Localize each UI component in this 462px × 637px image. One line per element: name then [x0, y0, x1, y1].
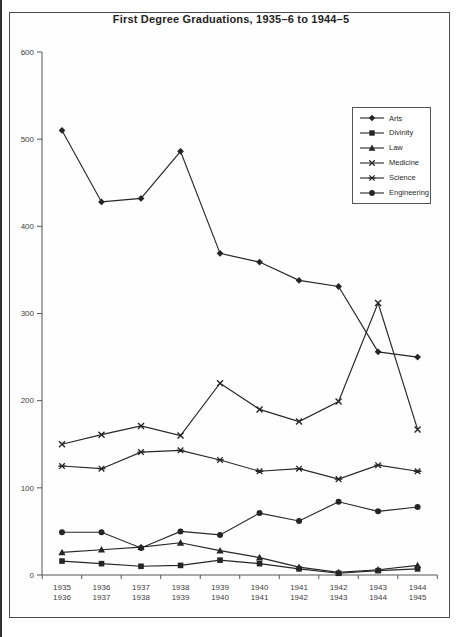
series-medicine [59, 300, 421, 447]
legend-item-engineering: Engineering [359, 189, 428, 197]
square-marker-icon [178, 563, 184, 569]
star-marker-icon [58, 463, 66, 469]
arts-diamond-marker-icon [359, 114, 385, 122]
x-axis-tick-label: 1944 [409, 583, 427, 592]
x-axis-tick-label: 1941 [290, 583, 308, 592]
series-divinity [59, 557, 420, 576]
x-marker-icon [336, 399, 342, 405]
engineering-circle-marker-icon [359, 189, 385, 197]
square-marker-icon [59, 558, 65, 564]
circle-marker-icon [257, 510, 263, 516]
legend-item-law: Law [359, 144, 428, 152]
y-axis-tick-label: 400 [21, 222, 35, 231]
legend-label-engineering: Engineering [389, 189, 429, 197]
diamond-marker-icon [256, 259, 263, 266]
triangle-marker-icon [414, 562, 421, 569]
legend-item-divinity: Divinity [359, 129, 428, 137]
x-axis-tick-label: 1939 [211, 583, 229, 592]
diamond-marker-icon [59, 127, 66, 134]
square-marker-icon [257, 561, 263, 567]
y-axis-tick-label: 0 [30, 571, 35, 580]
law-triangle-marker-icon [359, 144, 385, 152]
y-axis-tick-label: 100 [21, 484, 35, 493]
legend-label-divinity: Divinity [389, 129, 413, 137]
x-axis-tick-label: 1940 [251, 583, 269, 592]
x-axis-tick-label: 1942 [330, 583, 348, 592]
series-engineering [59, 499, 421, 551]
diamond-marker-icon [335, 283, 342, 290]
x-marker-icon [296, 419, 302, 425]
circle-marker-icon [178, 528, 184, 534]
circle-marker-icon [296, 518, 302, 524]
series-science [58, 448, 421, 482]
star-marker-icon [374, 462, 382, 468]
x-axis-tick-label: 1935 [53, 583, 71, 592]
x-axis-tick-label: 1938 [132, 593, 150, 602]
x-axis-tick-label: 1937 [132, 583, 150, 592]
square-marker-icon [99, 561, 105, 567]
legend-label-arts: Arts [389, 115, 402, 123]
star-marker-icon [137, 449, 145, 455]
x-marker-icon [257, 406, 263, 412]
legend-item-science: Science [359, 174, 428, 182]
x-axis-tick-label: 1943 [330, 593, 348, 602]
x-marker-icon [375, 300, 381, 306]
star-marker-icon [414, 468, 422, 474]
y-axis-tick-label: 500 [21, 135, 35, 144]
x-axis-tick-label: 1936 [93, 583, 111, 592]
star-marker-icon [216, 457, 224, 463]
legend-item-arts: Arts [359, 114, 428, 122]
circle-marker-icon [99, 529, 105, 535]
x-axis-tick-label: 1939 [172, 593, 190, 602]
circle-marker-icon [217, 532, 223, 538]
x-axis-tick-label: 1941 [251, 593, 269, 602]
star-marker-icon [295, 466, 303, 472]
diamond-marker-icon [217, 250, 224, 257]
diamond-marker-icon [414, 354, 421, 361]
x-axis-tick-label: 1945 [409, 593, 427, 602]
x-axis-tick-label: 1943 [369, 583, 387, 592]
circle-marker-icon [138, 545, 144, 551]
y-axis-tick-label: 200 [21, 396, 35, 405]
x-marker-icon [217, 380, 223, 386]
y-axis-tick-label: 300 [21, 309, 35, 318]
circle-marker-icon [336, 499, 342, 505]
y-axis-tick-label: 600 [21, 48, 35, 57]
x-axis-tick-label: 1940 [211, 593, 229, 602]
legend-label-science: Science [389, 174, 416, 182]
square-marker-icon [138, 563, 144, 569]
star-marker-icon [256, 468, 264, 474]
medicine-x-marker-icon [359, 159, 385, 167]
square-marker-icon [217, 557, 223, 563]
star-marker-icon [98, 466, 106, 472]
star-marker-icon [177, 448, 185, 454]
x-axis-tick-label: 1938 [172, 583, 190, 592]
chart-plot-area: 0100200300400500600193519361936193719371… [0, 0, 462, 637]
x-axis-tick-label: 1944 [369, 593, 387, 602]
circle-marker-icon [59, 529, 65, 535]
x-axis-tick-label: 1936 [53, 593, 71, 602]
x-marker-icon [415, 426, 421, 432]
legend-label-medicine: Medicine [389, 159, 419, 167]
diamond-marker-icon [98, 199, 105, 206]
legend-label-law: Law [389, 144, 403, 152]
circle-marker-icon [415, 504, 421, 510]
triangle-marker-icon [177, 539, 184, 546]
series-law [58, 539, 421, 575]
diamond-marker-icon [296, 277, 303, 284]
x-axis-tick-label: 1937 [93, 593, 111, 602]
x-axis-tick-label: 1942 [290, 593, 308, 602]
legend: Arts Divinity Law Medicine Science Engin… [352, 107, 431, 204]
divinity-square-marker-icon [359, 129, 385, 137]
diamond-marker-icon [375, 348, 382, 355]
legend-item-medicine: Medicine [359, 159, 428, 167]
circle-marker-icon [375, 508, 381, 514]
star-marker-icon [335, 476, 343, 482]
science-star-marker-icon [359, 174, 385, 182]
